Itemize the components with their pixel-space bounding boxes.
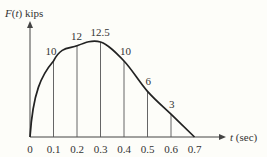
x-tick-label: 0.2 (70, 143, 84, 155)
point-value-label: 12.5 (91, 26, 111, 38)
point-value-label: 3 (169, 98, 175, 110)
y-axis-arrow-icon (27, 21, 33, 28)
x-tick-label: 0.6 (164, 143, 178, 155)
x-tick-label: 0.5 (141, 143, 155, 155)
y-axis-label: F(t) kips (4, 7, 43, 20)
point-value-label: 6 (146, 75, 152, 87)
x-axis-label: t (sec) (230, 131, 258, 144)
x-tick-label: 0.3 (94, 143, 108, 155)
point-value-label: 10 (46, 45, 58, 57)
x-axis-arrow-icon (219, 134, 226, 140)
force-time-chart: 101212.51063 00.10.20.30.40.50.60.7 F(t)… (0, 0, 267, 157)
x-tick-labels: 00.10.20.30.40.50.60.7 (27, 143, 202, 155)
x-tick-label: 0.4 (117, 143, 131, 155)
x-tick-label: 0.7 (188, 143, 202, 155)
point-value-label: 12 (71, 30, 82, 42)
x-tick-label: 0 (27, 143, 33, 155)
point-value-labels: 101212.51063 (46, 26, 176, 110)
x-tick-label: 0.1 (47, 143, 61, 155)
ordinate-lines (54, 42, 172, 137)
point-value-label: 10 (120, 45, 132, 57)
